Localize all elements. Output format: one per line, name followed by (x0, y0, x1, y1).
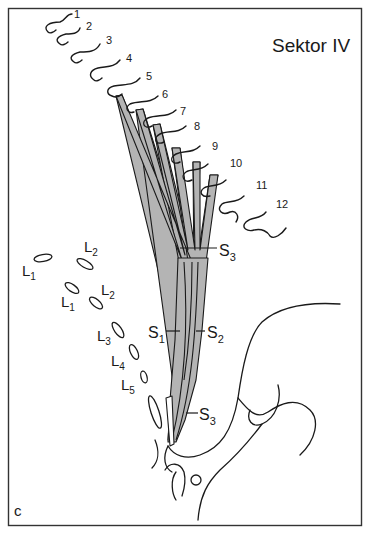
lumbar-label-l2-a: L2 (84, 238, 98, 258)
lumbar-label-l5: L5 (121, 376, 135, 396)
row-label-3: 3 (106, 34, 112, 46)
row-label-8: 8 (194, 120, 200, 132)
sacral-label-s3-top: S3 (219, 242, 236, 263)
sacral-label-s1: S1 (148, 324, 165, 345)
row-label-4: 4 (126, 52, 132, 64)
row-label-10: 10 (230, 157, 242, 169)
row-label-9: 9 (212, 140, 218, 152)
panel-letter: c (14, 502, 22, 519)
lumbar-label-l1-a: L1 (22, 262, 36, 282)
anatomical-diagram: Sektor IV c 1 2 3 (0, 0, 368, 538)
row-label-6: 6 (162, 88, 168, 100)
sacral-label-s2: S2 (207, 324, 224, 345)
row-label-2: 2 (86, 20, 92, 32)
sacral-label-s3-bottom: S3 (199, 406, 216, 427)
row-label-7: 7 (180, 105, 186, 117)
lumbar-label-l4: L4 (111, 352, 125, 372)
lumbar-label-l2-b: L2 (101, 281, 115, 301)
row-label-1: 1 (74, 8, 80, 20)
row-label-5: 5 (146, 70, 152, 82)
row-label-12: 12 (276, 198, 288, 210)
figure-title: Sektor IV (272, 35, 350, 56)
lumbar-label-l3: L3 (97, 327, 111, 347)
lumbar-label-l1-b: L1 (61, 293, 75, 313)
row-label-11: 11 (256, 179, 267, 191)
